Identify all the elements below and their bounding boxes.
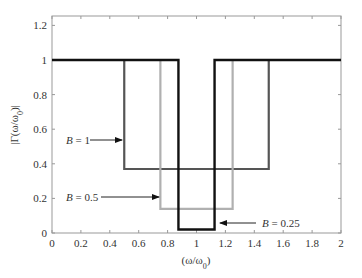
chart: 00.20.40.60.811.21.41.61.8200.20.40.60.8… [0,0,362,278]
x-tick-label: 0.2 [74,237,88,249]
x-tick-label: 1.8 [305,237,319,249]
y-tick-label: 1 [42,54,48,66]
y-tick-label: 0.2 [33,192,47,204]
annotation-label: B = 1 [66,134,90,146]
x-tick-label: 2 [338,237,344,249]
x-tick-label: 1.6 [276,237,290,249]
x-tick-label: 1.2 [219,237,233,249]
y-tick-label: 0.6 [33,123,47,135]
x-tick-label: 0 [49,237,55,249]
y-axis-label: |Γ(ω/ω0)| [8,105,25,145]
annotations: B = 1B = 0.5B = 0.25 [66,134,300,229]
axis-ticks: 00.20.40.60.811.21.41.61.8200.20.40.60.8… [33,16,344,249]
x-tick-label: 1.4 [247,237,261,249]
y-tick-label: 1.2 [33,19,47,31]
x-tick-label: 0.4 [103,237,117,249]
y-tick-label: 0.4 [33,158,47,170]
x-axis-label: (ω/ω0) [182,254,211,271]
x-tick-label: 1 [194,237,200,249]
series-line [52,60,341,169]
series-line [52,60,341,209]
annotation-label: B = 0.25 [262,217,300,229]
series-line [52,60,341,230]
y-tick-label: 0.8 [33,89,47,101]
y-tick-label: 0 [42,227,48,239]
x-tick-label: 0.6 [132,237,146,249]
annotation-label: B = 0.5 [66,191,99,203]
data-series [52,60,341,230]
x-tick-label: 0.8 [161,237,175,249]
